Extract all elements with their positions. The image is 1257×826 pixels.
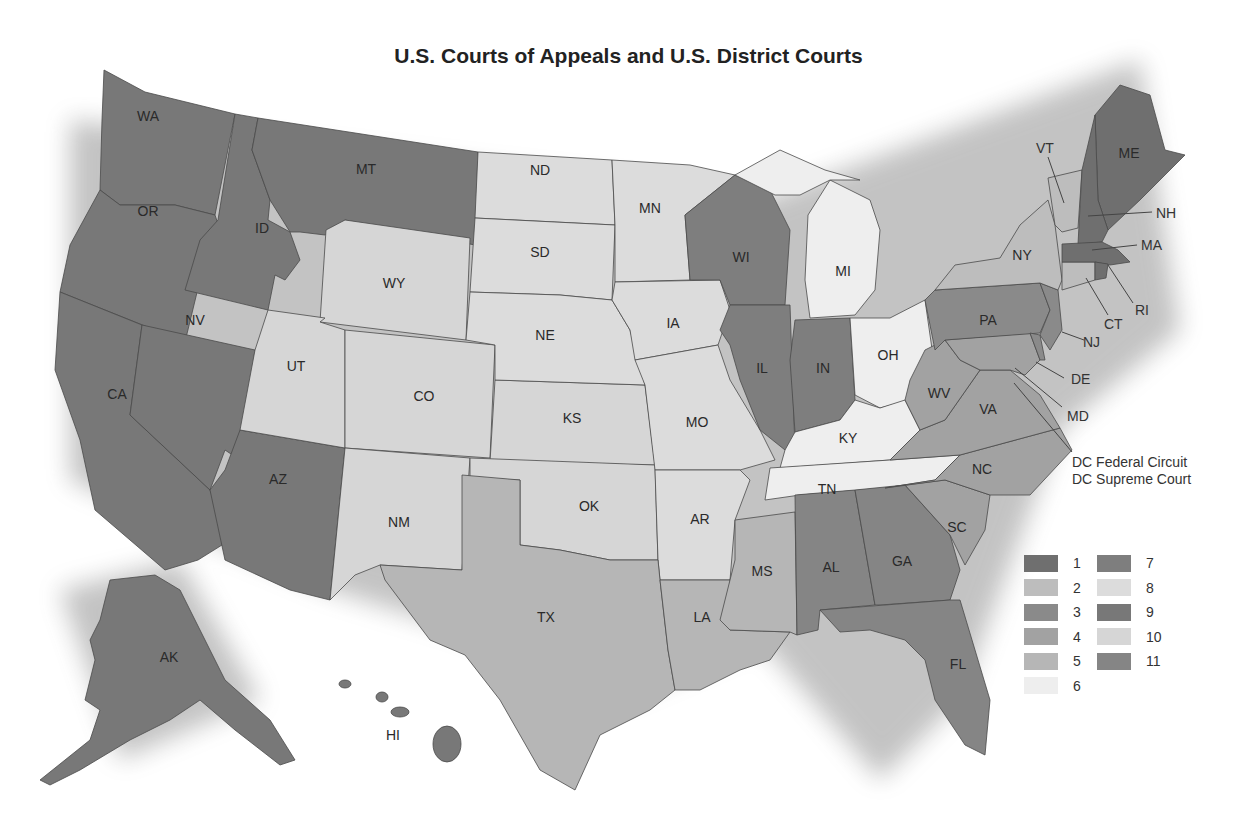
legend-item: 9: [1097, 600, 1162, 625]
callout-md: MD: [1067, 408, 1089, 424]
legend-label: 7: [1146, 555, 1154, 571]
label-in: IN: [816, 360, 830, 376]
label-mn: MN: [639, 200, 661, 216]
label-fl: FL: [950, 656, 967, 672]
label-ak: AK: [160, 649, 179, 665]
label-hi: HI: [386, 727, 400, 743]
label-mt: MT: [356, 161, 377, 177]
callout-vt: VT: [1036, 140, 1054, 156]
legend-swatch: [1097, 653, 1131, 670]
legend-label: 8: [1146, 580, 1154, 596]
legend-label: 11: [1146, 653, 1161, 669]
label-nm: NM: [388, 514, 410, 530]
label-ia: IA: [666, 315, 680, 331]
legend-label: 3: [1073, 604, 1081, 620]
legend-item: 2: [1024, 576, 1081, 601]
legend-item: 4: [1024, 625, 1081, 650]
label-ca: CA: [107, 386, 127, 402]
legend-item: 7: [1097, 551, 1162, 576]
legend-item: 3: [1024, 600, 1081, 625]
label-ky: KY: [839, 430, 858, 446]
legend-swatch: [1024, 628, 1058, 645]
legend-label: 10: [1146, 629, 1162, 645]
label-pa: PA: [979, 312, 997, 328]
legend-item: 6: [1024, 674, 1081, 699]
label-wv: WV: [928, 385, 951, 401]
callout-dc-supreme: DC Supreme Court: [1072, 471, 1191, 487]
state-hi[interactable]: [339, 680, 461, 762]
legend-swatch: [1097, 628, 1131, 645]
legend-swatch: [1097, 555, 1131, 572]
label-ks: KS: [563, 410, 582, 426]
label-nc: NC: [972, 461, 992, 477]
label-ar: AR: [690, 511, 709, 527]
legend-label: 2: [1073, 580, 1081, 596]
label-tn: TN: [818, 481, 837, 497]
us-circuit-map: WA OR CA ID MT NV AZ AK HI WY UT CO NM K…: [0, 0, 1257, 826]
label-co: CO: [414, 388, 435, 404]
legend-label: 9: [1146, 604, 1154, 620]
label-il: IL: [756, 360, 768, 376]
legend-item: 8: [1097, 576, 1162, 601]
legend-swatch: [1097, 579, 1131, 596]
label-ut: UT: [287, 358, 306, 374]
label-va: VA: [979, 401, 997, 417]
legend-item: 10: [1097, 625, 1162, 650]
label-sd: SD: [530, 244, 549, 260]
legend-column-right: 7 8 9 10 11: [1097, 551, 1162, 674]
legend-label: 5: [1073, 653, 1081, 669]
label-ne: NE: [535, 327, 554, 343]
state-az[interactable]: [210, 430, 345, 600]
callout-nj: NJ: [1083, 334, 1100, 350]
legend-label: 6: [1073, 678, 1081, 694]
label-ny: NY: [1012, 247, 1032, 263]
label-tx: TX: [537, 609, 556, 625]
state-ri[interactable]: [1095, 262, 1108, 280]
legend-swatch: [1024, 579, 1058, 596]
label-ms: MS: [752, 563, 773, 579]
label-mo: MO: [686, 414, 709, 430]
callout-de: DE: [1071, 371, 1090, 387]
legend-swatch: [1024, 555, 1058, 572]
label-nv: NV: [185, 312, 205, 328]
callout-ri: RI: [1135, 302, 1149, 318]
label-oh: OH: [878, 347, 899, 363]
state-wa[interactable]: [100, 70, 235, 215]
label-wa: WA: [137, 108, 160, 124]
label-nd: ND: [530, 162, 550, 178]
callout-ct: CT: [1104, 316, 1123, 332]
label-wy: WY: [383, 275, 406, 291]
callout-nh: NH: [1156, 205, 1176, 221]
legend-label: 1: [1073, 555, 1081, 571]
legend-item: 1: [1024, 551, 1081, 576]
label-az: AZ: [269, 471, 287, 487]
legend-column-left: 1 2 3 4 5 6: [1024, 551, 1081, 698]
legend-swatch: [1024, 653, 1058, 670]
legend-label: 4: [1073, 629, 1081, 645]
legend-swatch: [1024, 604, 1058, 621]
label-mi: MI: [835, 263, 851, 279]
label-or: OR: [138, 203, 159, 219]
label-sc: SC: [947, 519, 966, 535]
label-ok: OK: [579, 498, 600, 514]
legend-swatch: [1024, 677, 1058, 694]
legend-item: 5: [1024, 649, 1081, 674]
legend-swatch: [1097, 604, 1131, 621]
label-la: LA: [693, 609, 711, 625]
label-id: ID: [255, 220, 269, 236]
legend-item: 11: [1097, 649, 1162, 674]
callout-dc-federal: DC Federal Circuit: [1072, 454, 1187, 470]
label-ga: GA: [892, 553, 913, 569]
callout-ma: MA: [1141, 237, 1163, 253]
label-al: AL: [822, 559, 839, 575]
label-me: ME: [1119, 145, 1140, 161]
label-wi: WI: [732, 249, 749, 265]
